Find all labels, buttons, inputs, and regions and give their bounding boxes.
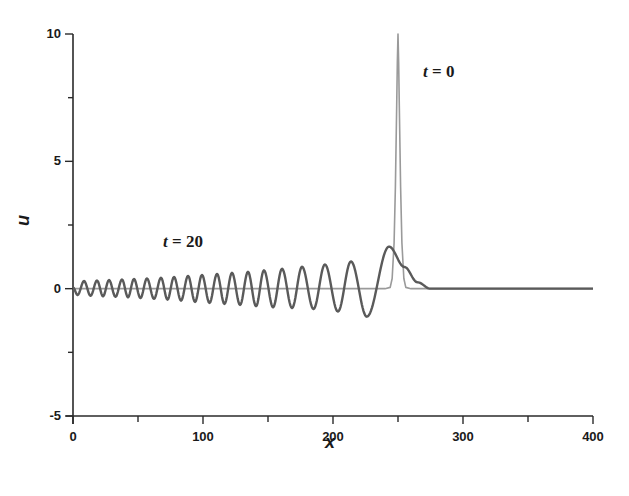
annotation-t20: t = 20 [163, 232, 203, 252]
chart-canvas [0, 0, 629, 496]
x-tick-label: 400 [568, 429, 618, 444]
series-t0-line [73, 34, 593, 289]
x-tick-label: 100 [178, 429, 228, 444]
series-layer [73, 34, 593, 317]
annotation-t20-eq: = 20 [168, 232, 203, 251]
y-tick-label: 0 [21, 281, 61, 296]
y-tick-label: -5 [21, 408, 61, 423]
series-t20-line [73, 247, 593, 317]
axes [65, 34, 593, 424]
x-tick-label: 300 [438, 429, 488, 444]
x-axis-title: x [325, 432, 335, 453]
annotation-t0-eq: = 0 [428, 62, 455, 81]
y-tick-label: 5 [21, 153, 61, 168]
annotation-t0: t = 0 [423, 62, 454, 82]
y-tick-label: 10 [21, 26, 61, 41]
y-axis-title: u [13, 215, 34, 226]
x-tick-label: 0 [48, 429, 98, 444]
